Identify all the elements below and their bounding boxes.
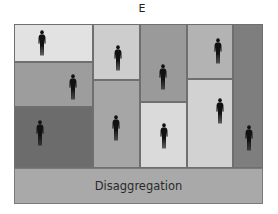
person-icon <box>216 98 224 124</box>
person-icon <box>214 38 222 64</box>
person-icon <box>112 115 120 141</box>
person-icon <box>38 30 46 56</box>
population-cell-c1r2 <box>14 62 93 107</box>
population-cell-c1r3 <box>14 107 93 168</box>
disaggregation-bar: Disaggregation <box>14 168 263 204</box>
person-icon <box>160 123 168 149</box>
person-icon <box>114 45 122 71</box>
population-cell-c3r1 <box>140 24 187 102</box>
person-icon <box>159 64 167 90</box>
population-cell-c4r1 <box>187 24 233 79</box>
diagram-title: E <box>0 2 278 15</box>
population-cell-c1r1 <box>14 24 93 62</box>
person-icon <box>245 125 253 151</box>
person-icon <box>36 120 44 146</box>
disaggregation-label: Disaggregation <box>95 179 183 193</box>
population-cell-c4r2 <box>187 79 233 168</box>
person-icon <box>69 74 77 100</box>
